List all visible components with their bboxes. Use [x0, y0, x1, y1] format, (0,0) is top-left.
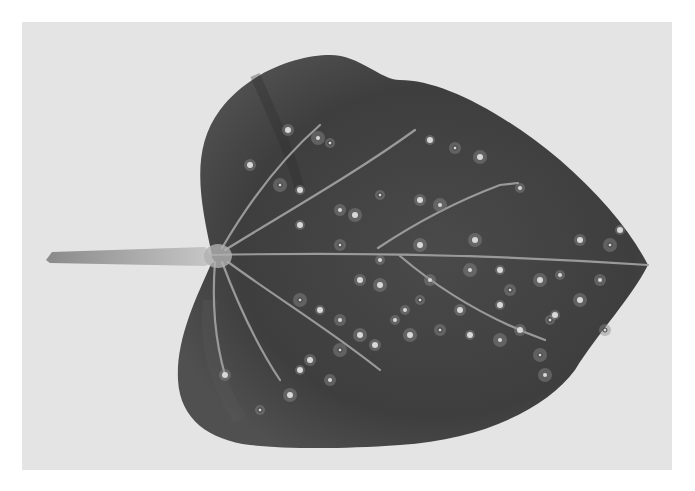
petiole — [46, 247, 215, 266]
leaf-photo — [0, 0, 695, 491]
leaf-blade — [178, 55, 648, 448]
